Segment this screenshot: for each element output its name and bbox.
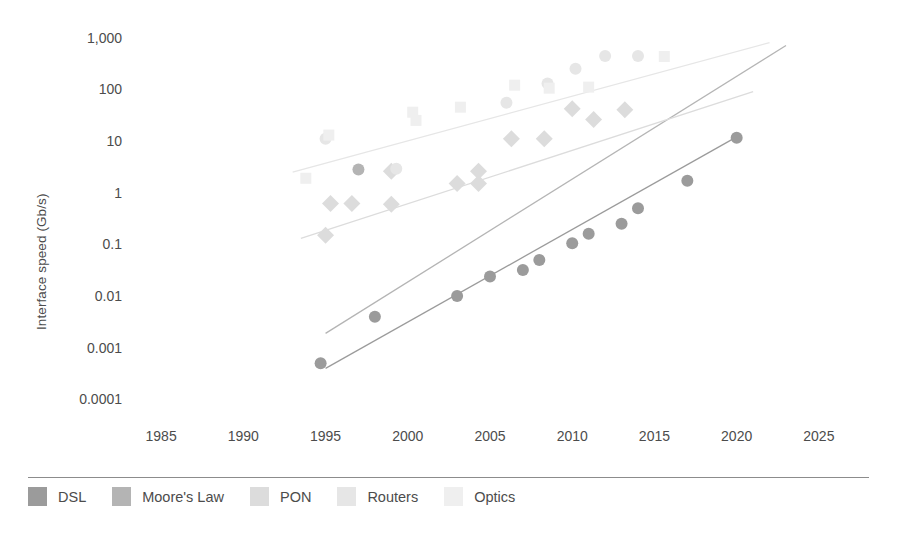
- data-point-routers: [500, 97, 512, 109]
- marker-group: [300, 50, 742, 369]
- data-point-dsl: [632, 202, 644, 214]
- trendline-routers: [293, 43, 770, 173]
- data-point-routers: [390, 163, 402, 175]
- trendline-group: [293, 43, 786, 369]
- data-point-optics: [583, 82, 594, 93]
- data-point-pon: [536, 130, 553, 147]
- data-point-optics: [659, 51, 670, 62]
- data-point-dsl: [451, 290, 463, 302]
- data-point-moore-s-law: [352, 164, 364, 176]
- trendline-pon: [301, 92, 753, 239]
- data-point-dsl: [566, 237, 578, 249]
- legend-swatch-icon: [250, 487, 269, 506]
- data-point-optics: [323, 130, 334, 141]
- data-point-optics: [544, 83, 555, 94]
- data-point-dsl: [315, 357, 327, 369]
- data-point-dsl: [616, 218, 628, 230]
- data-point-routers: [632, 50, 644, 62]
- data-point-dsl: [533, 254, 545, 266]
- data-point-optics: [509, 80, 520, 91]
- legend-swatch-icon: [337, 487, 356, 506]
- legend-label: Routers: [367, 489, 418, 505]
- data-point-optics: [455, 102, 466, 113]
- data-point-dsl: [517, 264, 529, 276]
- data-point-dsl: [681, 175, 693, 187]
- legend-label: PON: [280, 489, 311, 505]
- chart-container: Interface speed (Gb/s) 1,0001001010.10.0…: [0, 0, 897, 549]
- legend-swatch-icon: [444, 487, 463, 506]
- data-point-pon: [585, 111, 602, 128]
- data-point-pon: [383, 196, 400, 213]
- data-point-pon: [322, 195, 339, 212]
- chart-legend: DSLMoore's LawPONRoutersOptics: [28, 487, 869, 506]
- data-point-dsl: [583, 228, 595, 240]
- legend-item-moore-s-law[interactable]: Moore's Law: [112, 487, 224, 506]
- data-point-optics: [300, 173, 311, 184]
- legend-swatch-icon: [28, 487, 47, 506]
- legend-item-optics[interactable]: Optics: [444, 487, 515, 506]
- legend-label: Moore's Law: [142, 489, 224, 505]
- legend-row: DSLMoore's LawPONRoutersOptics: [28, 487, 869, 506]
- legend-item-dsl[interactable]: DSL: [28, 487, 86, 506]
- legend-item-routers[interactable]: Routers: [337, 487, 418, 506]
- plot-area: [0, 0, 897, 549]
- data-point-pon: [616, 101, 633, 118]
- data-point-pon: [317, 227, 334, 244]
- legend-label: Optics: [474, 489, 515, 505]
- trendline-moore-s-law: [326, 46, 786, 334]
- data-point-dsl: [484, 270, 496, 282]
- data-point-pon: [503, 130, 520, 147]
- data-point-optics: [411, 115, 422, 126]
- data-point-pon: [564, 100, 581, 117]
- data-point-dsl: [731, 132, 743, 144]
- data-point-routers: [570, 63, 582, 75]
- legend-divider: [28, 477, 869, 478]
- data-point-pon: [470, 163, 487, 180]
- data-point-dsl: [369, 311, 381, 323]
- legend-item-pon[interactable]: PON: [250, 487, 311, 506]
- data-point-routers: [599, 50, 611, 62]
- legend-swatch-icon: [112, 487, 131, 506]
- data-point-pon: [343, 195, 360, 212]
- legend-label: DSL: [58, 489, 86, 505]
